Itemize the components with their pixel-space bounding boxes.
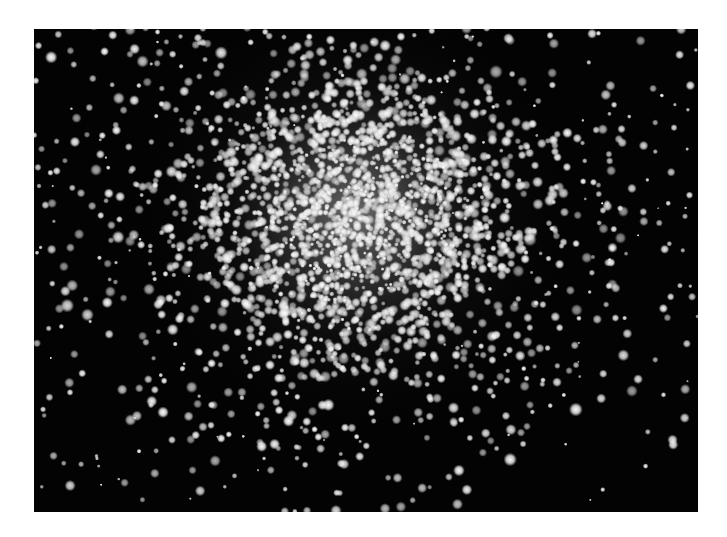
star-cluster-image: Globular star cluster — [34, 29, 698, 512]
star-field-canvas — [34, 29, 698, 512]
